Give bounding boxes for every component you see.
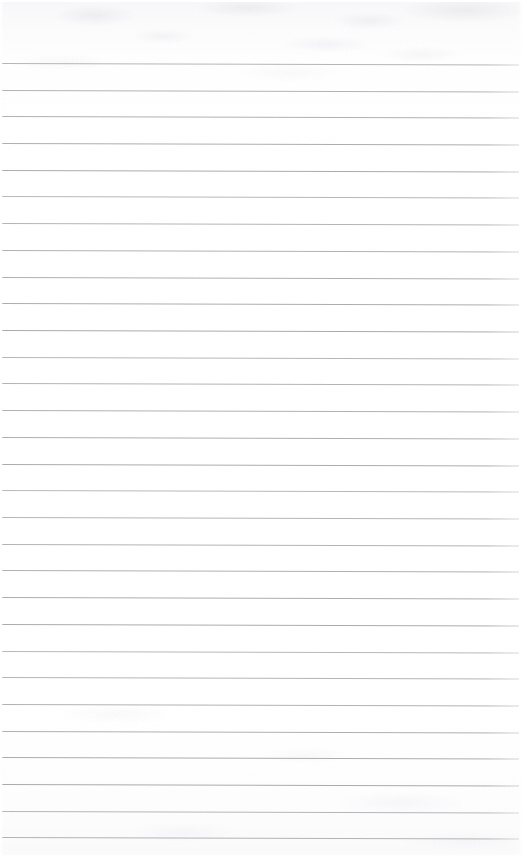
rule-line	[2, 704, 519, 707]
scan-edge-top	[0, 0, 527, 2]
rule-line	[2, 383, 519, 386]
rule-line	[2, 517, 519, 520]
rule-line	[2, 277, 519, 280]
rule-line	[2, 90, 519, 93]
rule-line	[2, 544, 519, 547]
rule-line	[2, 784, 519, 787]
rule-line	[2, 490, 519, 493]
rule-line	[2, 757, 519, 760]
rule-line	[2, 63, 519, 66]
rule-line	[2, 624, 519, 627]
rule-line	[2, 597, 519, 600]
rule-line	[2, 143, 519, 146]
rule-line	[2, 410, 519, 413]
rule-line	[2, 303, 519, 306]
scanned-notebook-page	[0, 0, 527, 856]
scan-edge-right	[518, 0, 527, 856]
rule-line	[2, 437, 519, 440]
rule-line	[2, 731, 519, 734]
rule-line	[2, 196, 519, 199]
rule-line	[2, 223, 519, 226]
rule-line	[2, 651, 519, 654]
rule-line	[2, 330, 519, 333]
rule-line	[2, 250, 519, 253]
ruled-lines-layer	[0, 0, 527, 856]
scan-edge-left	[0, 0, 3, 856]
rule-line	[2, 116, 519, 119]
rule-line	[2, 170, 519, 173]
rule-line	[2, 570, 519, 573]
rule-line	[2, 811, 519, 814]
rule-line	[2, 357, 519, 360]
rule-line	[2, 677, 519, 680]
rule-line	[2, 464, 519, 467]
